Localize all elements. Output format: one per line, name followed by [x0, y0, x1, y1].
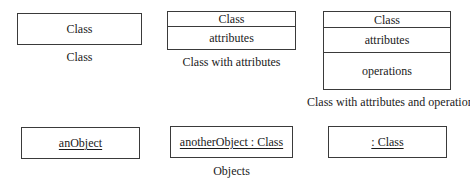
class-with-attributes-caption: Class with attributes	[167, 56, 296, 68]
class-box: Class	[17, 13, 142, 45]
object-box-named: anObject	[21, 127, 140, 159]
class-with-attributes-box: Class attributes	[167, 11, 296, 50]
object-label: : Class	[329, 127, 446, 157]
object-box-named-typed: anotherObject : Class	[170, 126, 293, 158]
objects-caption: Objects	[170, 165, 293, 177]
class-caption: Class	[17, 51, 142, 63]
attributes-compartment: attributes	[168, 26, 295, 49]
class-with-attributes-and-operations-caption: Class with attributes and operations	[307, 96, 467, 108]
object-label: anotherObject : Class	[171, 127, 292, 157]
class-name-compartment: Class	[18, 14, 141, 44]
operations-compartment: operations	[324, 52, 450, 89]
object-label: anObject	[22, 128, 139, 158]
class-name-compartment: Class	[324, 12, 450, 27]
object-name: : Class	[371, 136, 403, 148]
class-name-compartment: Class	[168, 12, 295, 26]
attributes-compartment: attributes	[324, 27, 450, 52]
object-name: anotherObject : Class	[180, 136, 283, 148]
object-box-anonymous: : Class	[328, 126, 447, 158]
object-name: anObject	[59, 137, 102, 149]
class-with-attributes-and-operations-box: Class attributes operations	[323, 11, 451, 90]
